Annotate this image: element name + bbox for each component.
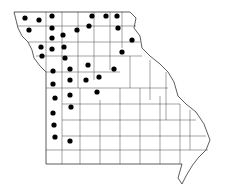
- county-dot: [60, 32, 65, 37]
- county-dot: [129, 37, 134, 42]
- county-dot: [26, 27, 31, 32]
- county-dot: [103, 13, 108, 18]
- county-dot: [62, 55, 67, 60]
- county-dot: [49, 13, 54, 18]
- county-dot: [38, 44, 43, 49]
- county-dot: [39, 53, 44, 58]
- county-dot: [67, 138, 72, 143]
- county-dot: [49, 46, 54, 51]
- county-dot: [94, 89, 99, 94]
- county-dot: [114, 13, 119, 18]
- county-dot: [67, 92, 72, 97]
- county-dot: [119, 49, 124, 54]
- county-dot: [96, 74, 101, 79]
- county-dot: [50, 68, 55, 73]
- county-dot: [50, 110, 55, 115]
- county-dot: [61, 44, 66, 49]
- state-outline: [14, 12, 210, 184]
- county-dot: [36, 17, 41, 22]
- occurrence-dots: [22, 13, 134, 143]
- county-dot: [50, 81, 55, 86]
- county-dot: [49, 25, 54, 30]
- county-lines: [18, 12, 208, 164]
- county-map-svg: [0, 0, 227, 194]
- county-dot: [49, 35, 54, 40]
- county-dot: [67, 66, 72, 71]
- county-dot: [52, 95, 57, 100]
- county-dot: [85, 62, 90, 67]
- county-dot: [68, 104, 73, 109]
- county-dot: [89, 13, 94, 18]
- county-dot: [83, 77, 88, 82]
- county-dot: [67, 77, 72, 82]
- missouri-map: [0, 0, 227, 194]
- county-dot: [22, 15, 27, 20]
- county-dot: [86, 23, 91, 28]
- county-dot: [52, 134, 57, 139]
- county-dot: [111, 66, 116, 71]
- county-dot: [74, 27, 79, 32]
- county-dot: [115, 25, 120, 30]
- county-dot: [51, 122, 56, 127]
